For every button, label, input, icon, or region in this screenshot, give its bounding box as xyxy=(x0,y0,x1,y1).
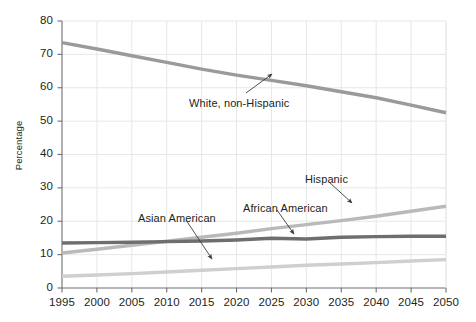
y-tick-label: 80 xyxy=(29,14,53,26)
axis-ticks xyxy=(58,21,447,293)
y-tick-label: 30 xyxy=(29,180,53,192)
chart-svg xyxy=(0,0,476,322)
y-tick-label: 0 xyxy=(29,281,53,293)
series-lines xyxy=(62,43,446,277)
y-tick-label: 60 xyxy=(29,80,53,92)
series-label-white-non-hispanic: White, non-Hispanic xyxy=(189,97,289,109)
series-label-african-american: African American xyxy=(243,202,328,214)
y-tick-label: 70 xyxy=(29,47,53,59)
y-tick-label: 10 xyxy=(29,247,53,259)
y-tick-label: 50 xyxy=(29,114,53,126)
x-tick-label: 2050 xyxy=(426,296,466,308)
series-label-asian-american: Asian American xyxy=(138,212,216,224)
y-tick-label: 40 xyxy=(29,147,53,159)
y-tick-label: 20 xyxy=(29,214,53,226)
series-label-hispanic: Hispanic xyxy=(305,173,348,185)
chart-container: Percentage 01020304050607080 19952000200… xyxy=(0,0,476,322)
